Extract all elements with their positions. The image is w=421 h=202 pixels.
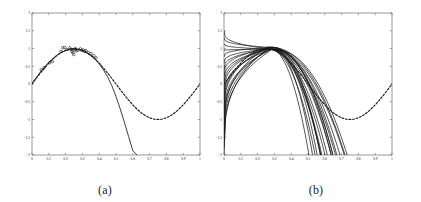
panel-b-caption: (b) — [211, 183, 421, 198]
svg-text:0.4: 0.4 — [289, 157, 294, 161]
svg-text:0.9: 0.9 — [373, 157, 378, 161]
svg-text:1: 1 — [199, 157, 201, 161]
panel-a: 00.10.20.30.40.50.60.70.80.91-2-1.5-1-0.… — [0, 0, 210, 202]
svg-text:-1: -1 — [27, 118, 30, 122]
figure-container: 00.10.20.30.40.50.60.70.80.91-2-1.5-1-0.… — [0, 0, 421, 202]
svg-text:2: 2 — [220, 11, 222, 15]
svg-text:1.5: 1.5 — [218, 29, 223, 33]
svg-text:0.5: 0.5 — [26, 65, 31, 69]
svg-text:0.8: 0.8 — [356, 157, 361, 161]
svg-text:0.2: 0.2 — [63, 157, 68, 161]
svg-text:-1: -1 — [219, 118, 222, 122]
svg-text:0.7: 0.7 — [147, 157, 152, 161]
panel-a-caption: (a) — [0, 183, 210, 198]
svg-text:2: 2 — [28, 11, 30, 15]
svg-text:0.6: 0.6 — [131, 157, 136, 161]
panel-b: 00.10.20.30.40.50.60.70.80.91-2-1.5-1-0.… — [211, 0, 421, 202]
plot-b: 00.10.20.30.40.50.60.70.80.91-2-1.5-1-0.… — [211, 0, 421, 172]
svg-text:0.5: 0.5 — [114, 157, 119, 161]
plot-a: 00.10.20.30.40.50.60.70.80.91-2-1.5-1-0.… — [0, 0, 210, 172]
svg-text:1: 1 — [28, 47, 30, 51]
svg-text:0: 0 — [31, 157, 33, 161]
svg-text:-1.5: -1.5 — [24, 136, 30, 140]
svg-text:0.8: 0.8 — [164, 157, 169, 161]
svg-text:0.2: 0.2 — [255, 157, 260, 161]
svg-text:0.5: 0.5 — [306, 157, 311, 161]
svg-text:0: 0 — [220, 82, 222, 86]
svg-text:-2: -2 — [27, 153, 30, 157]
svg-text:0: 0 — [28, 82, 30, 86]
svg-text:0.3: 0.3 — [272, 157, 277, 161]
svg-text:0.3: 0.3 — [80, 157, 85, 161]
svg-text:0.5: 0.5 — [218, 65, 223, 69]
svg-text:0.9: 0.9 — [181, 157, 186, 161]
svg-text:-0.5: -0.5 — [24, 100, 30, 104]
svg-text:0: 0 — [223, 157, 225, 161]
svg-text:0.1: 0.1 — [47, 157, 52, 161]
svg-text:0.6: 0.6 — [323, 157, 328, 161]
svg-text:0.7: 0.7 — [339, 157, 344, 161]
svg-text:1.5: 1.5 — [26, 29, 31, 33]
svg-text:1: 1 — [391, 157, 393, 161]
svg-text:-0.5: -0.5 — [216, 100, 222, 104]
svg-text:-1.5: -1.5 — [216, 136, 222, 140]
svg-text:-2: -2 — [219, 153, 222, 157]
svg-text:1: 1 — [220, 47, 222, 51]
svg-text:0.1: 0.1 — [239, 157, 244, 161]
svg-text:0.4: 0.4 — [97, 157, 102, 161]
